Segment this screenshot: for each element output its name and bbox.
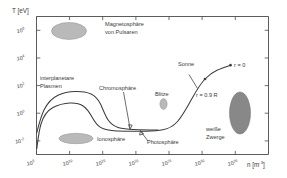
magnetosphere-pulsars-region-blob [52, 23, 87, 40]
y-axis-title: T [eV] [12, 7, 29, 15]
blitze-label: Blitze [155, 91, 169, 97]
interplanetary-plasma-label-line2: Plasmen [40, 83, 62, 89]
x-tick-exp-4: 25 [167, 159, 172, 164]
x-tick-exp-6: 35 [233, 159, 238, 164]
r-zero-label: r = 0 [234, 62, 245, 68]
ionosphere-label: Ionosphäre [97, 136, 125, 142]
white-dwarfs-label-line1: weiße [205, 126, 221, 132]
sonne-label: Sonne [178, 61, 194, 67]
point-marker-r-0-9-R [204, 78, 207, 81]
x-axis-title-close: ] [263, 161, 265, 169]
magnetosphere-pulsars-label-line2: von Pulsaren [105, 29, 138, 35]
white-dwarfs-region-blob [230, 92, 251, 134]
blitze-region-blob [160, 99, 167, 110]
x-tick-exp-1: 10 [68, 159, 73, 164]
photosphere-label: Photosphäre [147, 139, 179, 145]
x-tick-exp-3: 20 [134, 159, 139, 164]
x-tick-exp-2: 15 [101, 159, 106, 164]
r-zero-nine-R-label: r = 0.9 R [196, 92, 218, 98]
x-axis-title: n [m-3] [247, 160, 265, 169]
chromosphere-label: Chromosphäre [99, 85, 136, 91]
x-tick-exp-5: 30 [200, 159, 205, 164]
plasma-parameter-chart: 106 104 102 100 10-2 T [eV] [0, 0, 287, 178]
interplanetary-plasma-label-line1: interplanetare [40, 75, 74, 81]
magnetosphere-pulsars-label-line1: Magnetosphäre [105, 21, 144, 27]
white-dwarfs-label-line2: Zwerge [206, 134, 225, 140]
ionosphere-region-blob [59, 133, 93, 143]
x-axis-title-base: n [m [247, 161, 259, 169]
y-tick-exp-4: -2 [20, 137, 24, 141]
point-marker-r-0 [229, 64, 232, 67]
